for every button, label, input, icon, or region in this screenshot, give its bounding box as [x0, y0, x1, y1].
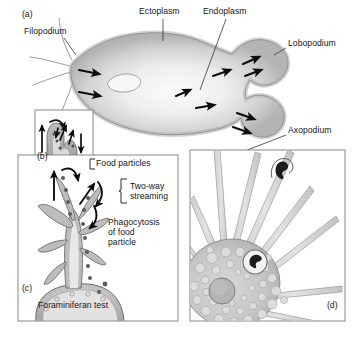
vacuole [207, 247, 214, 254]
panel-id-a: (a) [22, 9, 33, 19]
vacuole [235, 269, 241, 275]
vacuole [207, 253, 218, 264]
label-axopodium: Axopodium [288, 125, 331, 135]
panel-id-d: (d) [327, 300, 338, 310]
vacuole [249, 302, 257, 310]
food-particle [59, 147, 62, 150]
label-filopodium: Filopodium [24, 26, 67, 36]
vacuole [258, 293, 266, 301]
filopodium-thread [59, 18, 72, 60]
food-particle [53, 133, 56, 136]
two-way-streaming-bracket [118, 178, 130, 204]
vacuole [243, 315, 253, 325]
food-particle [56, 140, 59, 143]
food-particle [83, 236, 87, 240]
vacuole [244, 273, 250, 279]
food-particle [86, 264, 90, 268]
food-particle [85, 250, 89, 254]
vacuole [195, 263, 205, 273]
vacuole [201, 276, 209, 284]
vacuole [202, 288, 209, 295]
vacuole [249, 285, 255, 291]
panel-id-b: (b) [37, 151, 48, 161]
vacuole [268, 274, 277, 283]
vacuole [193, 296, 202, 305]
vacuole [259, 280, 267, 288]
food-particle [72, 145, 75, 148]
vacuole [230, 318, 239, 327]
label-phagocytosis: Phagocytosis of food particle [108, 217, 160, 247]
food-particle [88, 276, 92, 280]
label-foraminiferan-test: Foraminiferan test [38, 300, 108, 310]
vacuole [257, 309, 266, 318]
vacuole [212, 266, 220, 274]
food-particle [64, 188, 68, 192]
vacuole [214, 314, 223, 323]
panel-id-c: (c) [22, 283, 32, 293]
food-particle [86, 196, 90, 200]
label-two-way-streaming: Two-way streaming [130, 181, 168, 201]
label-endoplasm: Endoplasm [203, 6, 246, 16]
vacuole [189, 281, 198, 290]
vacuole [236, 307, 243, 314]
vacuole [235, 247, 244, 256]
food-particle [103, 282, 108, 287]
figure-amoeboid-pseudopodia: Filopodium Ectoplasm Endoplasm Lobopodiu… [0, 0, 354, 337]
vacuole [271, 286, 281, 296]
food-particle [81, 222, 85, 226]
filopodium-thread [30, 57, 70, 66]
panel-d-heliozoan [184, 150, 345, 327]
captured-prey-vacuole [243, 250, 267, 274]
food-particle [61, 176, 65, 180]
vacuole [226, 260, 234, 268]
label-food-particles: Food particles [96, 158, 151, 168]
food-particle [68, 212, 72, 216]
label-ectoplasm: Ectoplasm [139, 6, 180, 16]
nucleus-highlight [211, 279, 227, 295]
vacuole [280, 296, 287, 303]
vacuole [222, 306, 230, 314]
vacuole [241, 295, 247, 301]
food-particle [97, 290, 101, 294]
food-particle [66, 200, 70, 204]
food-particles-bracket [88, 158, 97, 170]
food-particle [82, 208, 86, 212]
filopodium-thread [33, 72, 71, 85]
vacuole [201, 306, 211, 316]
figure-canvas [0, 0, 354, 337]
label-lobopodium: Lobopodium [288, 38, 336, 48]
vacuole [221, 247, 231, 257]
vacuole [267, 299, 277, 309]
